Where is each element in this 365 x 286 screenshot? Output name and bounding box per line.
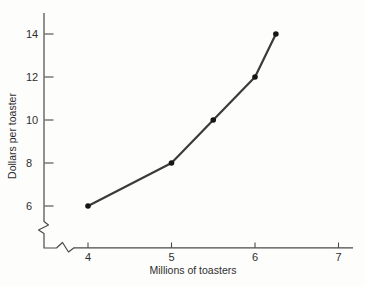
supply-curve-line [88, 34, 276, 206]
supply-curve-figure: 681012144567 Dollars per toaster Million… [0, 0, 365, 286]
x-tick-label: 7 [335, 251, 341, 263]
axes: 681012144567 [26, 13, 353, 263]
x-tick-label: 5 [168, 251, 174, 263]
x-tick-label: 4 [85, 251, 91, 263]
data-point-marker [169, 160, 175, 166]
y-tick-label: 12 [26, 71, 38, 83]
y-axis-label: Dollars per toaster [6, 93, 18, 179]
x-axis-label: Millions of toasters [150, 264, 237, 276]
data-point-marker [210, 117, 216, 123]
y-tick-label: 8 [26, 157, 32, 169]
line-chart: 681012144567 Dollars per toaster Million… [0, 0, 365, 286]
data-point-marker [273, 31, 279, 37]
data-point-marker [85, 203, 91, 209]
x-tick-label: 6 [252, 251, 258, 263]
data-point-marker [252, 74, 258, 80]
y-tick-label: 10 [26, 114, 38, 126]
y-tick-label: 14 [26, 28, 38, 40]
axis-lines-with-break-marks [39, 13, 354, 252]
data-series [85, 31, 278, 209]
y-tick-label: 6 [26, 200, 32, 212]
